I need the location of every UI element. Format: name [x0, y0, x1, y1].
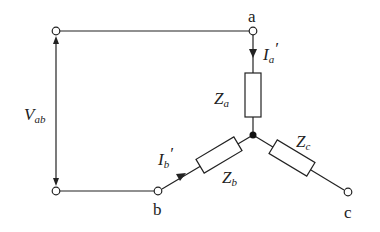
impedance-zb-label: Zb	[222, 168, 237, 188]
impedance-zc-label: Zc	[296, 132, 310, 152]
current-a-label: Ia′	[262, 39, 278, 65]
terminal-top-left	[52, 27, 60, 35]
impedance-za-label: Za	[214, 89, 229, 109]
voltage-label: Vab	[24, 105, 46, 125]
terminal-bottom-left	[52, 187, 60, 195]
vab-arrow-down-icon	[53, 178, 59, 186]
current-b-label: Ib′	[157, 144, 173, 170]
node-b-label: b	[153, 200, 162, 219]
node-c-label: c	[344, 203, 352, 222]
current-a-arrow-icon	[249, 49, 257, 58]
terminal-b	[154, 187, 162, 195]
impedance-zb	[196, 137, 242, 173]
node-a-label: a	[248, 7, 256, 26]
impedance-za	[245, 73, 261, 117]
neutral-node	[250, 132, 257, 139]
vab-arrow-up-icon	[53, 36, 59, 44]
terminal-c	[344, 188, 352, 196]
terminal-a	[249, 27, 257, 35]
circuit-diagram: a b c Vab Ia′ Ib′ Za Zb Zc	[0, 0, 380, 232]
